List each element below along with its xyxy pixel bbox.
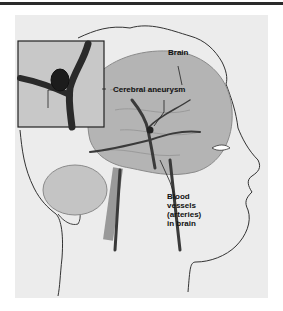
brain [88, 51, 233, 175]
label-brain: Brain [168, 48, 188, 57]
back-of-head [20, 130, 63, 296]
aneurysm-dot [147, 127, 154, 134]
label-blood-vessels: Blood vessels (arteries) in brain [167, 192, 201, 228]
inset-aneurysm [51, 69, 69, 91]
cerebellum [43, 165, 107, 215]
head-illustration [0, 0, 283, 311]
label-cerebral-aneurysm: Cerebral aneurysm [113, 85, 185, 94]
